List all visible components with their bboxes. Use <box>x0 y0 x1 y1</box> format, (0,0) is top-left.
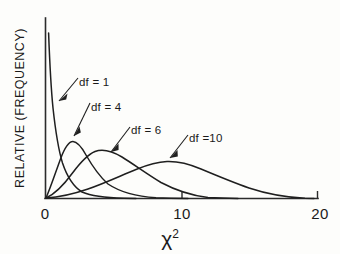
x-tick-label-20: 20 <box>311 205 329 222</box>
series-label-df-1: df = 1 <box>79 76 109 88</box>
y-axis-title: RELATIVE (FREQUENCY) <box>13 28 27 188</box>
series-label-df-4: df = 4 <box>91 101 122 113</box>
leader-df-6 <box>111 127 130 152</box>
x-tick-label-0: 0 <box>41 205 50 222</box>
leader-df-1 <box>59 78 78 101</box>
plot-canvas: df = 1 df = 4 df = 6 df =10 0 10 20 χ2 R… <box>0 0 340 254</box>
series-label-df-6: df = 6 <box>131 124 161 136</box>
leader-df-4 <box>74 103 90 136</box>
x-tick-label-10: 10 <box>173 205 191 222</box>
x-axis-title-base: χ <box>161 227 172 250</box>
curve-df-1 <box>49 33 136 198</box>
series-label-df-10: df =10 <box>189 132 223 144</box>
chi-square-distribution-figure: df = 1 df = 4 df = 6 df =10 0 10 20 χ2 R… <box>0 0 340 254</box>
leader-df-10 <box>170 135 188 158</box>
x-axis-title-superscript: 2 <box>172 227 179 241</box>
curve-df-6 <box>46 150 238 198</box>
x-axis-title: χ2 <box>161 227 179 250</box>
